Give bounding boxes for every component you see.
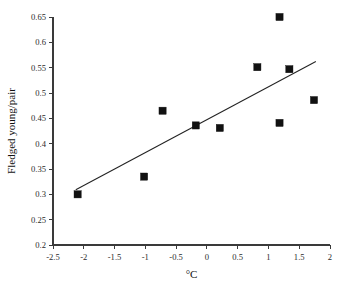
x-axis-tick-label: 0.5 xyxy=(232,252,243,262)
data-point-marker[interactable] xyxy=(276,119,283,126)
x-axis-tick-label: -1 xyxy=(142,252,149,262)
chart-canvas: 0.20.250.30.350.40.450.50.550.60.65-2.5-… xyxy=(0,0,348,290)
data-point-marker[interactable] xyxy=(74,191,81,198)
data-point-marker[interactable] xyxy=(310,96,317,103)
x-axis-tick-label: 2 xyxy=(328,252,332,262)
y-axis-tick-label: 0.3 xyxy=(35,189,46,199)
x-axis-tick-label: 1 xyxy=(266,252,270,262)
y-axis-tick-label: 0.6 xyxy=(35,37,46,47)
data-point-marker[interactable] xyxy=(286,66,293,73)
y-axis-tick-label: 0.2 xyxy=(35,240,46,250)
y-axis-tick-label: 0.35 xyxy=(31,164,46,174)
x-axis-title: °C xyxy=(186,268,198,280)
y-axis-tick-label: 0.25 xyxy=(31,215,46,225)
y-axis-tick-label: 0.65 xyxy=(31,12,46,22)
y-axis-tick-label: 0.5 xyxy=(35,88,46,98)
y-axis-tick-label: 0.4 xyxy=(35,139,46,149)
data-point-marker[interactable] xyxy=(141,173,148,180)
x-axis-tick-label: -1.5 xyxy=(108,252,122,262)
x-axis-tick-label: 0 xyxy=(205,252,209,262)
x-axis-tick-label: 1.5 xyxy=(294,252,305,262)
x-axis-tick-label: -0.5 xyxy=(169,252,183,262)
x-axis-tick-label: -2 xyxy=(80,252,87,262)
y-axis-title: Fledged young/pair xyxy=(5,88,17,174)
data-point-marker[interactable] xyxy=(216,124,223,131)
scatter-plot-figure: 0.20.250.30.350.40.450.50.550.60.65-2.5-… xyxy=(0,0,348,290)
y-axis-tick-label: 0.45 xyxy=(31,113,46,123)
data-point-marker[interactable] xyxy=(159,107,166,114)
data-point-marker[interactable] xyxy=(192,122,199,129)
x-axis-tick-label: -2.5 xyxy=(46,252,60,262)
y-axis-tick-label: 0.55 xyxy=(31,63,46,73)
data-point-marker[interactable] xyxy=(254,64,261,71)
data-point-marker[interactable] xyxy=(276,13,283,20)
